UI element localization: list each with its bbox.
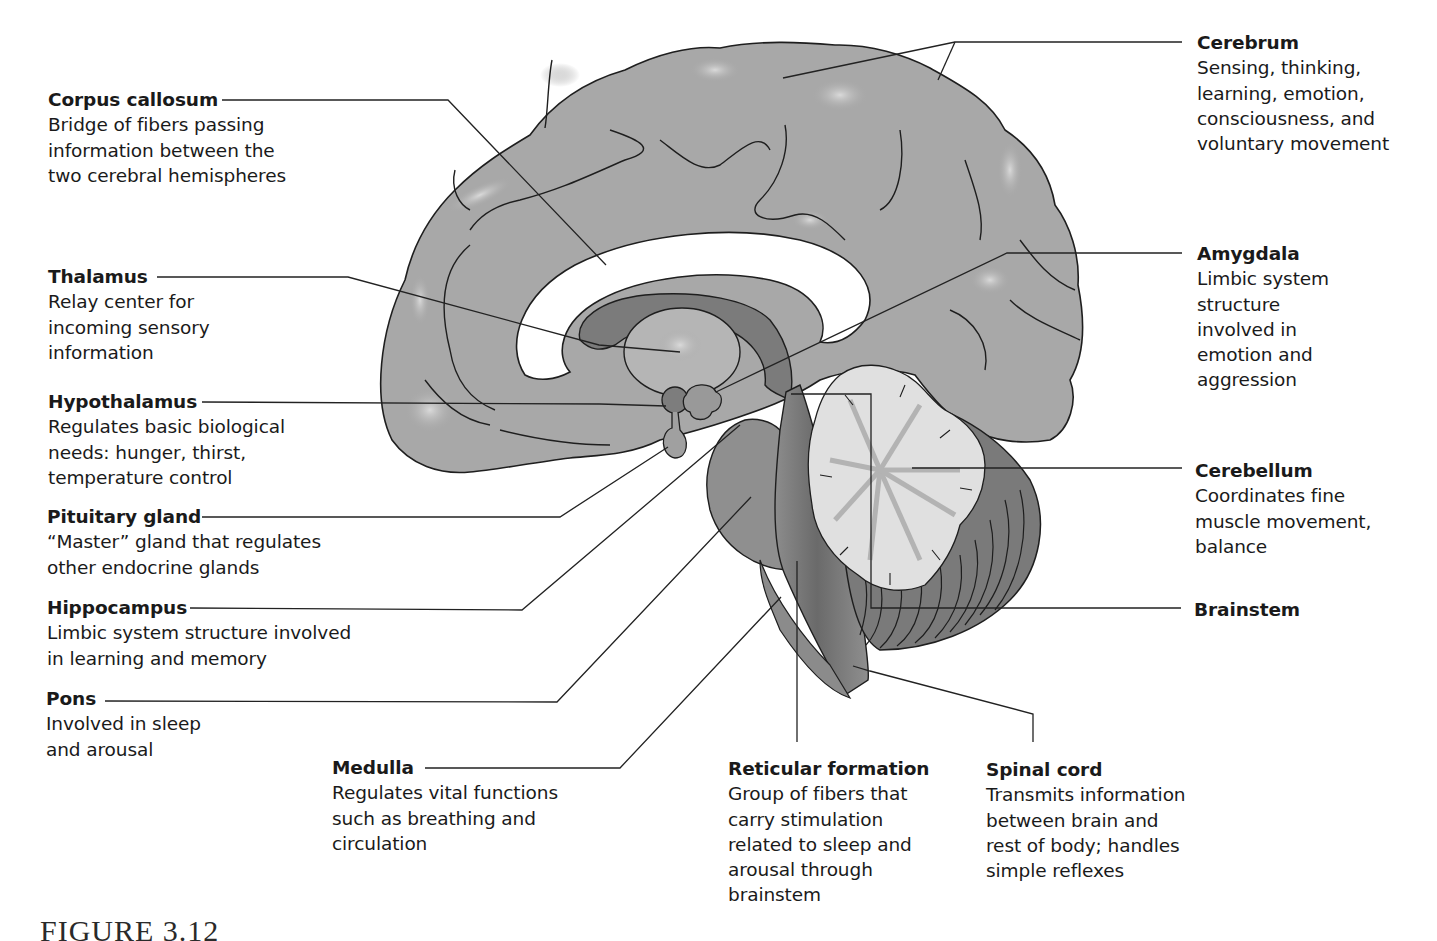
- leader-line-cerebrum-b: [938, 42, 955, 80]
- label-pituitary-gland: Pituitary gland “Master” gland that regu…: [47, 504, 321, 580]
- label-spinal-cord: Spinal cord Transmits information betwee…: [986, 757, 1186, 883]
- label-hippocampus: Hippocampus Limbic system structure invo…: [47, 595, 351, 671]
- label-title: Thalamus: [48, 264, 210, 289]
- label-reticular-formation: Reticular formation Group of fibers that…: [728, 756, 929, 908]
- label-thalamus: Thalamus Relay center for incoming senso…: [48, 264, 210, 365]
- label-description: Relay center for incoming sensory inform…: [48, 289, 210, 365]
- label-title: Brainstem: [1194, 597, 1300, 622]
- brain-diagram: Corpus callosum Bridge of fibers passing…: [0, 0, 1437, 941]
- label-title: Reticular formation: [728, 756, 929, 781]
- label-title: Hippocampus: [47, 595, 351, 620]
- label-description: Limbic system structure involved in emot…: [1197, 266, 1329, 392]
- label-description: “Master” gland that regulates other endo…: [47, 529, 321, 580]
- label-description: Transmits information between brain and …: [986, 782, 1186, 883]
- label-title: Pituitary gland: [47, 504, 321, 529]
- label-title: Cerebrum: [1197, 30, 1389, 55]
- label-hypothalamus: Hypothalamus Regulates basic biological …: [48, 389, 285, 490]
- label-title: Spinal cord: [986, 757, 1186, 782]
- label-corpus-callosum: Corpus callosum Bridge of fibers passing…: [48, 87, 286, 188]
- figure-caption: FIGURE 3.12: [40, 914, 219, 941]
- label-cerebrum: Cerebrum Sensing, thinking, learning, em…: [1197, 30, 1389, 156]
- label-cerebellum: Cerebellum Coordinates fine muscle movem…: [1195, 458, 1371, 559]
- label-title: Pons: [46, 686, 201, 711]
- label-brainstem: Brainstem: [1194, 597, 1300, 622]
- label-title: Cerebellum: [1195, 458, 1371, 483]
- label-description: Group of fibers that carry stimulation r…: [728, 781, 929, 907]
- label-description: Involved in sleep and arousal: [46, 711, 201, 762]
- label-description: Limbic system structure involved in lear…: [47, 620, 351, 671]
- label-title: Corpus callosum: [48, 87, 286, 112]
- label-pons: Pons Involved in sleep and arousal: [46, 686, 201, 762]
- label-description: Regulates vital functions such as breath…: [332, 780, 558, 856]
- label-title: Medulla: [332, 755, 558, 780]
- label-amygdala: Amygdala Limbic system structure involve…: [1197, 241, 1329, 393]
- label-description: Coordinates fine muscle movement, balanc…: [1195, 483, 1371, 559]
- label-title: Hypothalamus: [48, 389, 285, 414]
- label-description: Bridge of fibers passing information bet…: [48, 112, 286, 188]
- label-description: Sensing, thinking, learning, emotion, co…: [1197, 55, 1389, 156]
- leader-line-spinal-cord: [853, 666, 1033, 742]
- label-title: Amygdala: [1197, 241, 1329, 266]
- label-medulla: Medulla Regulates vital functions such a…: [332, 755, 558, 856]
- leader-line-medulla: [425, 597, 781, 768]
- label-description: Regulates basic biological needs: hunger…: [48, 414, 285, 490]
